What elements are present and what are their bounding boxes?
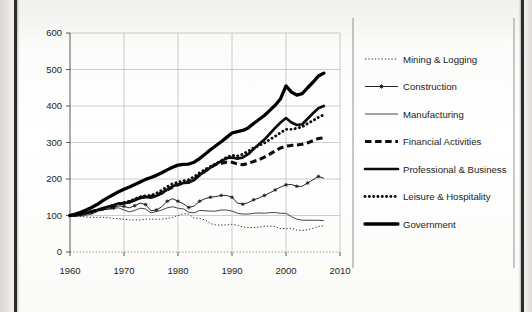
construction-marker	[241, 202, 245, 206]
legend-label: Professional & Business	[403, 164, 507, 175]
construction-marker	[252, 198, 256, 202]
construction-marker	[144, 203, 148, 207]
x-tick-2010: 2010	[329, 265, 350, 276]
page-left-shadow	[0, 0, 14, 312]
construction-marker	[230, 195, 234, 199]
legend-item-manufacturing[interactable]: Manufacturing	[365, 109, 464, 120]
y-tick-400: 400	[46, 100, 62, 111]
legend-label: Government	[403, 219, 456, 230]
legend-label: Construction	[403, 81, 457, 92]
y-tick-300: 300	[46, 137, 62, 148]
y-tick-100: 100	[46, 210, 62, 221]
construction-marker	[133, 204, 137, 208]
construction-marker	[306, 181, 310, 185]
construction-marker	[155, 208, 159, 212]
construction-marker	[219, 194, 223, 198]
legend-item-construction[interactable]: Construction	[365, 81, 457, 92]
legend-label: Leisure & Hospitality	[403, 191, 491, 202]
y-tick-600: 600	[46, 27, 62, 38]
legend-star-marker	[379, 84, 383, 88]
construction-marker	[176, 199, 180, 203]
construction-marker	[284, 183, 288, 187]
legend-item-government[interactable]: Government	[365, 219, 456, 230]
construction-marker	[317, 175, 321, 179]
data-series-lines	[68, 73, 324, 230]
construction-marker	[273, 188, 277, 192]
construction-marker	[295, 185, 299, 189]
legend-item-leisure-hospitality[interactable]: Leisure & Hospitality	[365, 191, 491, 202]
construction-marker	[263, 194, 267, 198]
y-tick-200: 200	[46, 173, 62, 184]
legend-label: Financial Activities	[403, 136, 482, 147]
y-tick-500: 500	[46, 64, 62, 75]
y-axis-tick-labels: 0100200300400500600	[46, 27, 62, 257]
x-tick-2000: 2000	[275, 265, 296, 276]
construction-marker	[165, 199, 169, 203]
x-axis-tick-labels: 196019701980199020002010	[59, 265, 350, 276]
employment-index-line-chart: 0100200300400500600 19601970198019902000…	[17, 0, 524, 312]
chart-legend: Mining & LoggingConstructionManufacturin…	[353, 18, 514, 268]
construction-marker	[209, 195, 213, 199]
scanned-page-background: 0100200300400500600 19601970198019902000…	[0, 0, 532, 312]
legend-label: Mining & Logging	[403, 54, 477, 65]
legend-item-professional-business[interactable]: Professional & Business	[365, 164, 507, 175]
x-tick-1960: 1960	[59, 265, 80, 276]
construction-marker	[122, 205, 126, 209]
y-tick-0: 0	[57, 246, 62, 257]
page-right-shadow	[524, 0, 532, 312]
x-tick-1990: 1990	[221, 265, 242, 276]
legend-label: Manufacturing	[403, 109, 464, 120]
line-chart-figure: 0100200300400500600 19601970198019902000…	[17, 0, 524, 312]
construction-marker	[187, 206, 191, 210]
x-tick-1980: 1980	[167, 265, 188, 276]
legend-item-mining-logging[interactable]: Mining & Logging	[365, 54, 477, 65]
x-tick-1970: 1970	[113, 265, 134, 276]
legend-item-financial-activities[interactable]: Financial Activities	[365, 136, 482, 147]
construction-marker	[198, 199, 202, 203]
